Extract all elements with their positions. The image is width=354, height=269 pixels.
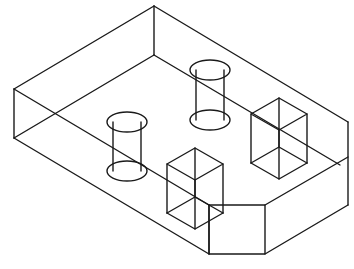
square-prism-right <box>251 98 307 179</box>
drawing-canvas <box>0 0 354 269</box>
block-outline <box>14 6 348 254</box>
cylinder-left <box>107 112 147 181</box>
chamfer-face <box>209 205 265 254</box>
cylinder-right <box>190 60 230 130</box>
isometric-wireframe-drawing <box>0 0 354 269</box>
square-prism-front <box>167 148 223 229</box>
